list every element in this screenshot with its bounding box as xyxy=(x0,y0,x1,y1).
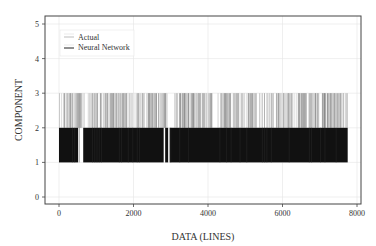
y-axis-ticks: 012345 xyxy=(35,20,45,202)
svg-text:2000: 2000 xyxy=(126,209,142,218)
svg-text:2: 2 xyxy=(35,124,39,133)
y-axis-label: COMPONENT xyxy=(13,79,24,141)
svg-text:0: 0 xyxy=(35,193,39,202)
actual-series xyxy=(60,93,348,128)
svg-text:4: 4 xyxy=(35,55,39,64)
neural-network-series xyxy=(59,128,348,163)
svg-text:5: 5 xyxy=(35,20,39,29)
chart: 02000400060008000 012345 DATA (LINES) CO… xyxy=(0,0,376,246)
legend-nn-label: Neural Network xyxy=(78,43,130,52)
svg-text:1: 1 xyxy=(35,158,39,167)
svg-text:3: 3 xyxy=(35,89,39,98)
svg-text:4000: 4000 xyxy=(200,209,216,218)
legend: Actual Neural Network xyxy=(60,30,134,56)
svg-text:6000: 6000 xyxy=(275,209,291,218)
svg-text:8000: 8000 xyxy=(349,209,365,218)
x-axis-label: DATA (LINES) xyxy=(172,231,235,243)
x-axis-ticks: 02000400060008000 xyxy=(57,204,365,218)
svg-text:0: 0 xyxy=(57,209,61,218)
legend-actual-label: Actual xyxy=(78,33,100,42)
